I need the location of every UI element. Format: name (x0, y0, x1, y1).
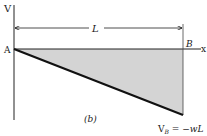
point-a-label: A (3, 45, 11, 55)
point-b-label: B (185, 39, 193, 49)
x-axis-label: x (201, 44, 206, 54)
length-label: L (91, 23, 99, 34)
svg-text:VB = −wL: VB = −wL (157, 124, 203, 135)
vb-equals: = − (169, 124, 190, 134)
vb-annotation: VB = −wL (157, 124, 203, 135)
figure-label: (b) (84, 114, 97, 124)
vb-expression: wL (190, 124, 204, 134)
v-axis-label: V (3, 3, 12, 14)
shear-diagram: V x A B L (b) VB = −wL (0, 0, 207, 136)
